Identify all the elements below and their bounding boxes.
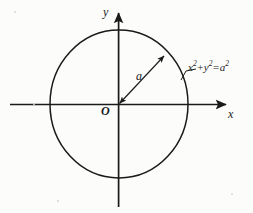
- equation-exponent-2: 2: [209, 59, 213, 68]
- circle-equation-label: x2+y2=a2: [188, 60, 229, 73]
- origin-label: O: [101, 105, 110, 117]
- figure-canvas: [0, 0, 253, 213]
- equation-plus-sign: +: [197, 61, 204, 73]
- circle-figure: y x O a x2+y2=a2: [0, 0, 253, 213]
- y-axis-label: y: [103, 6, 108, 18]
- x-axis-label: x: [228, 108, 233, 120]
- equation-exponent-3: 2: [225, 59, 229, 68]
- radius-label: a: [136, 70, 142, 82]
- equation-equals-sign: =: [213, 61, 220, 73]
